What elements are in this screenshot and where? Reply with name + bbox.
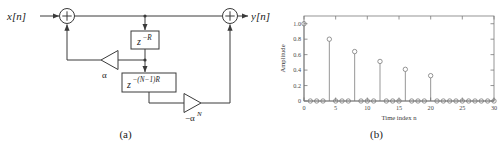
block-delay-N-1-R: z −(N−1)R (122, 73, 176, 92)
subcaption-a: (a) (0, 128, 251, 140)
x-tick-label: 20 (428, 104, 434, 111)
y-axis-ticks (304, 24, 494, 101)
stem-marker (327, 37, 331, 41)
stem-plot-svg: y[n] 0 0.2 (251, 0, 502, 125)
gain-alpha: α (101, 51, 118, 81)
y-tick-label: 0.6 (293, 51, 301, 58)
x-tick-label: 10 (364, 104, 370, 111)
wire-feedforward (201, 25, 230, 104)
y-tick-label: 1.0 (293, 20, 301, 27)
panel-block-diagram: z −R α z −(N−1)R (0, 0, 251, 152)
y-tick-label: 0 (298, 97, 301, 104)
block-delay-R-label: z (136, 36, 141, 47)
gain-neg-alpha-N-exponent: N (196, 110, 202, 118)
y-tick-label: 0.4 (293, 66, 301, 73)
stem-series (302, 22, 496, 104)
x-tick-label: 25 (459, 104, 465, 111)
block-delay-R-exponent: −R (143, 34, 153, 42)
x-tick-label: 30 (491, 104, 497, 111)
plot-axes (304, 16, 494, 101)
subcaption-b: (b) (251, 128, 502, 140)
y-tick-label: 0.8 (293, 35, 301, 42)
gain-neg-alpha-N: −α N (184, 94, 202, 124)
input-signal-label: x[n] (6, 10, 26, 22)
adder-output (223, 9, 238, 24)
output-signal-label: y[n] (251, 10, 270, 22)
x-axis-ticks (304, 16, 494, 101)
x-tick-label: 0 (302, 104, 305, 111)
x-axis-title: Time index n (382, 114, 418, 121)
block-delay-N-exponent: −(N−1)R (133, 76, 161, 84)
wire-delayN-out (149, 92, 184, 103)
adder-input (60, 9, 75, 24)
gain-alpha-label: α (102, 70, 107, 80)
y-axis-tick-labels: 0 0.2 0.4 0.6 0.8 1.0 (293, 20, 301, 104)
stem-marker (378, 59, 382, 63)
stem-marker (352, 49, 356, 53)
stem-marker (403, 67, 407, 71)
block-diagram-svg: z −R α z −(N−1)R (0, 0, 251, 125)
figure-container: z −R α z −(N−1)R (0, 0, 502, 152)
x-tick-label: 15 (396, 104, 402, 111)
stem-marker (428, 73, 432, 77)
block-delay-R: z −R (131, 31, 159, 49)
x-axis-tick-labels: 0 5 10 15 20 25 30 (302, 104, 497, 111)
panel-stem-plot: y[n] 0 0.2 (251, 0, 502, 152)
y-tick-label: 0.2 (293, 82, 301, 89)
x-tick-label: 5 (334, 104, 337, 111)
wire-feedback-alpha (67, 25, 101, 61)
block-delay-N-label: z (126, 79, 131, 90)
gain-neg-alpha-N-label: −α (185, 113, 195, 123)
y-axis-title: Amplitude (279, 44, 286, 72)
